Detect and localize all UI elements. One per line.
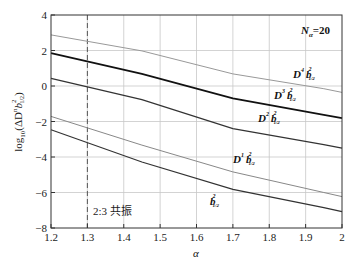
svg-text:2: 2 xyxy=(42,45,48,57)
chart: 1.21.31.41.51.61.71.81.92 420−2−4−6−8 α … xyxy=(0,0,353,267)
svg-text:log10(ΔDnb21/2): log10(ΔDnb21/2) xyxy=(10,92,27,152)
svg-text:1.6: 1.6 xyxy=(190,231,204,243)
svg-text:1.5: 1.5 xyxy=(153,231,167,243)
svg-text:1.8: 1.8 xyxy=(262,231,276,243)
svg-text:0: 0 xyxy=(42,80,48,92)
svg-text:−2: −2 xyxy=(35,116,47,128)
svg-text:2: 2 xyxy=(339,231,345,243)
svg-text:−6: −6 xyxy=(35,187,47,199)
svg-text:1.4: 1.4 xyxy=(117,231,131,243)
y-axis-label: log10(ΔDnb21/2) xyxy=(10,92,27,152)
label-b: b21/2 xyxy=(210,193,219,208)
svg-text:1.7: 1.7 xyxy=(226,231,240,243)
label-d3: D3b21/2 xyxy=(273,87,296,102)
x-axis-label: α xyxy=(193,247,199,259)
y-ticks: 420−2−4−6−8 xyxy=(35,9,55,234)
label-d1: D1b21/2 xyxy=(232,151,255,166)
svg-text:4: 4 xyxy=(42,9,48,21)
label-d2: D2b21/2 xyxy=(257,110,280,125)
svg-text:1.3: 1.3 xyxy=(81,231,95,243)
grid xyxy=(51,15,342,228)
x-ticks: 1.21.31.41.51.61.71.81.92 xyxy=(44,224,345,243)
svg-text:−4: −4 xyxy=(35,151,47,163)
svg-text:1.9: 1.9 xyxy=(299,231,313,243)
n-alpha-label: Nα=20 xyxy=(300,24,331,39)
label-d4: D4b21/2 xyxy=(292,66,315,81)
svg-text:−8: −8 xyxy=(35,222,47,234)
resonance-label: 2:3 共振 xyxy=(93,204,132,217)
